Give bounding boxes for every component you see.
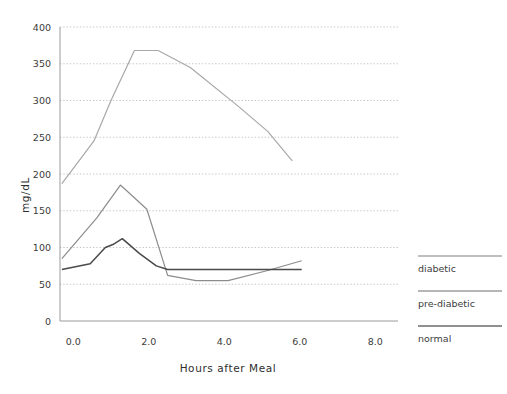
y-axis-title: mg/dL [19, 177, 31, 213]
x-tick-label: 2.0 [141, 336, 156, 347]
x-tick-label: 0.0 [66, 336, 81, 347]
y-tick-label: 400 [33, 22, 51, 33]
legend-label-normal: normal [418, 333, 451, 344]
y-tick-label: 300 [33, 95, 51, 106]
x-tick-label: 8.0 [368, 336, 383, 347]
x-axis-title: Hours after Meal [180, 362, 277, 374]
blood-glucose-line-chart: 050100150200250300350400 0.02.04.06.08.0… [0, 0, 507, 394]
y-tick-label: 250 [33, 132, 51, 143]
legend-label-pre-diabetic: pre-diabetic [418, 298, 475, 309]
x-tick-label: 6.0 [292, 336, 307, 347]
chart-figure: 050100150200250300350400 0.02.04.06.08.0… [0, 0, 507, 394]
y-tick-label: 0 [45, 316, 51, 327]
y-tick-label: 350 [33, 58, 51, 69]
y-tick-label: 50 [39, 279, 51, 290]
y-tick-label: 100 [33, 242, 51, 253]
legend-label-diabetic: diabetic [418, 263, 456, 274]
y-tick-label: 200 [33, 169, 51, 180]
x-tick-label: 4.0 [217, 336, 232, 347]
y-tick-label: 150 [33, 205, 51, 216]
